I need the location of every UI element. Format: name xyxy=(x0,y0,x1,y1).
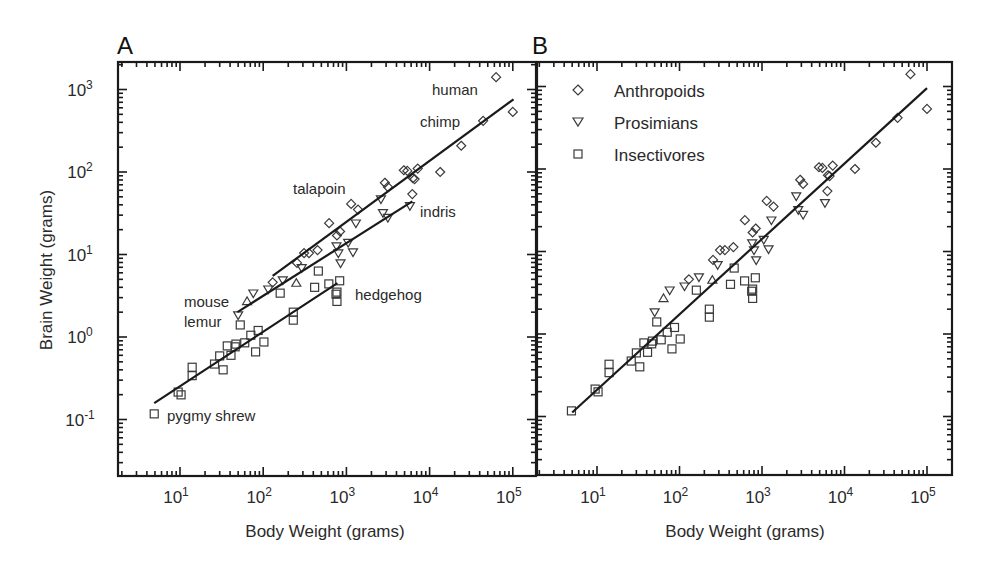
diamond-marker xyxy=(923,104,932,113)
square-marker xyxy=(705,313,713,321)
x-tick-label: 101 xyxy=(580,485,606,507)
annotation-label: chimp xyxy=(420,113,460,130)
y-axis-title: Brain Weight (grams) xyxy=(37,190,56,350)
diamond-marker xyxy=(769,202,778,211)
x-tick-label: 101 xyxy=(163,485,189,507)
x-tick-label: 104 xyxy=(413,485,439,507)
y-tick-label: 10-1 xyxy=(65,408,95,430)
triangle-down-marker-icon xyxy=(573,118,583,126)
x-axis-title-b: Body Weight (grams) xyxy=(665,522,824,541)
square-marker xyxy=(636,363,644,371)
annotation-label: indris xyxy=(420,203,456,220)
diamond-marker xyxy=(729,243,738,252)
plot-frame xyxy=(537,62,952,475)
triangle-down-marker xyxy=(792,193,801,201)
y-tick-label: 103 xyxy=(67,78,93,100)
x-tick-label: 105 xyxy=(496,485,522,507)
y-tick-label: 102 xyxy=(67,160,93,182)
triangle-up-marker xyxy=(659,294,668,302)
legend-label: Insectivores xyxy=(614,146,705,165)
square-marker xyxy=(219,366,227,374)
series-insectivores xyxy=(567,264,759,415)
square-marker xyxy=(751,274,759,282)
diamond-marker xyxy=(408,190,417,199)
square-marker xyxy=(276,289,284,297)
square-marker xyxy=(188,363,196,371)
diamond-marker xyxy=(457,141,466,150)
diamond-marker xyxy=(325,219,334,228)
panel-b: 101102103104105 xyxy=(537,62,952,507)
triangle-down-marker xyxy=(650,309,659,317)
x-tick-label: 104 xyxy=(828,485,854,507)
triangle-down-marker xyxy=(348,249,357,257)
square-marker xyxy=(314,267,322,275)
square-marker xyxy=(692,286,700,294)
legend-item-anthropoids: Anthropoids xyxy=(573,82,705,101)
x-tick-label: 103 xyxy=(330,485,356,507)
annotation-label: lemur xyxy=(184,313,222,330)
diamond-marker xyxy=(906,70,915,79)
diamond-marker xyxy=(313,246,322,255)
square-marker xyxy=(223,342,231,350)
square-marker xyxy=(177,391,185,399)
square-marker xyxy=(705,305,713,313)
square-marker xyxy=(741,277,749,285)
diamond-marker xyxy=(762,196,771,205)
legend-label: Anthropoids xyxy=(614,82,705,101)
brain-body-weight-figure: 10110210310410510-1100101102103humanchim… xyxy=(0,0,991,570)
legend-item-insectivores: Insectivores xyxy=(574,146,705,165)
y-tick-label: 100 xyxy=(67,325,93,347)
triangle-down-marker xyxy=(799,211,808,219)
triangle-down-marker xyxy=(680,283,689,291)
square-marker xyxy=(289,316,297,324)
regression-line xyxy=(572,88,927,412)
square-marker xyxy=(260,338,268,346)
regression-line xyxy=(154,283,337,403)
square-marker-icon xyxy=(574,150,582,158)
annotation-label: talapoin xyxy=(293,180,346,197)
diamond-marker xyxy=(871,138,880,147)
diamond-marker xyxy=(436,168,445,177)
diamond-marker xyxy=(508,107,517,116)
panel-label-b: B xyxy=(532,32,548,59)
annotation-label: hedgehog xyxy=(355,286,422,303)
triangle-up-marker xyxy=(292,279,301,287)
annotation-label: human xyxy=(432,81,478,98)
square-marker xyxy=(644,348,652,356)
square-marker xyxy=(311,283,319,291)
triangle-down-marker xyxy=(665,287,674,295)
square-marker xyxy=(653,318,661,326)
square-marker xyxy=(605,360,613,368)
square-marker xyxy=(252,348,260,356)
x-tick-label: 105 xyxy=(910,485,936,507)
triangle-down-marker xyxy=(249,290,258,298)
annotation-label: mouse xyxy=(184,293,229,310)
panel-a: 10110210310410510-1100101102103humanchim… xyxy=(65,62,536,507)
annotation-label: pygmy shrew xyxy=(167,407,256,424)
diamond-marker xyxy=(828,161,837,170)
triangle-down-marker xyxy=(767,217,776,225)
diamond-marker-icon xyxy=(573,85,583,95)
diamond-marker xyxy=(709,255,718,264)
diamond-marker xyxy=(823,187,832,196)
square-marker xyxy=(236,321,244,329)
diamond-marker xyxy=(347,199,356,208)
series-prosimians xyxy=(650,193,829,317)
triangle-down-marker xyxy=(336,260,345,268)
y-tick-label: 101 xyxy=(67,243,93,265)
square-marker xyxy=(668,345,676,353)
triangle-down-marker xyxy=(820,200,829,208)
x-axis-title-a: Body Weight (grams) xyxy=(245,522,404,541)
triangle-down-marker xyxy=(351,220,360,228)
legend-label: Prosimians xyxy=(614,114,698,133)
panel-label-a: A xyxy=(117,32,133,59)
square-marker xyxy=(657,336,665,344)
x-tick-label: 102 xyxy=(663,485,689,507)
diamond-marker xyxy=(492,73,501,82)
diamond-marker xyxy=(740,216,749,225)
triangle-down-marker xyxy=(694,274,703,282)
x-tick-label: 103 xyxy=(745,485,771,507)
series-anthropoids xyxy=(684,70,931,284)
square-marker xyxy=(726,280,734,288)
legend-item-prosimians: Prosimians xyxy=(573,114,698,133)
